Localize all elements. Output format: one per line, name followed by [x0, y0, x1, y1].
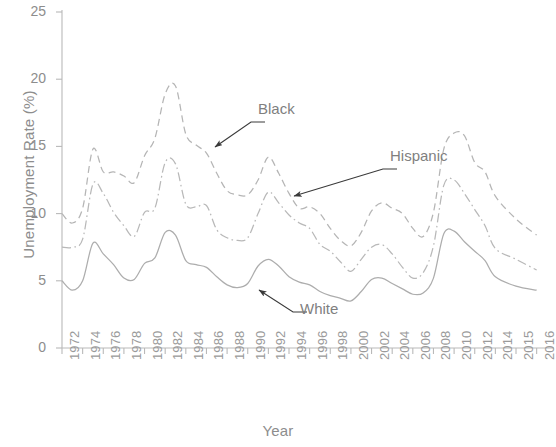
annotation-label-black: Black	[258, 100, 295, 117]
x-tick-label: 2002	[377, 331, 392, 360]
x-tick-label: 2010	[459, 331, 474, 360]
annotation-arrow-black	[215, 122, 265, 147]
x-tick-label: 2014	[500, 331, 515, 360]
x-tick-label: 1996	[315, 331, 330, 360]
y-tick-label: 0	[10, 339, 46, 355]
annotation-arrow-hispanic	[294, 169, 397, 196]
x-tick-label: 1982	[170, 331, 185, 360]
series-line-black	[62, 83, 537, 246]
y-tick-label: 15	[10, 137, 46, 153]
x-axis-title: Year	[0, 422, 556, 439]
annotation-label-white: White	[300, 300, 338, 317]
x-tick-label: 2015	[521, 331, 536, 360]
x-tick-label: 1980	[150, 331, 165, 360]
series-line-hispanic	[62, 158, 537, 279]
x-tick-label: 1992	[273, 331, 288, 360]
x-tick-label: 2012	[480, 331, 495, 360]
x-tick-label: 1998	[335, 331, 350, 360]
x-tick-label: 2004	[397, 331, 412, 360]
y-tick-label: 5	[10, 272, 46, 288]
x-tick-label: 1984	[191, 331, 206, 360]
x-tick-label: 1994	[294, 331, 309, 360]
y-tick-label: 10	[10, 205, 46, 221]
x-tick-label: 1990	[253, 331, 268, 360]
x-tick-label: 1974	[88, 331, 103, 360]
x-tick-label: 1978	[129, 331, 144, 360]
y-axis-title: Unemployment Rate (%)	[20, 55, 37, 295]
x-tick-label: 1972	[67, 331, 82, 360]
x-tick-label: 1976	[108, 331, 123, 360]
x-tick-label: 1986	[211, 331, 226, 360]
unemployment-rate-line-chart: Unemployment Rate (%) Year 0510152025 19…	[0, 0, 556, 447]
x-tick-label: 2016	[542, 331, 556, 360]
annotation-label-hispanic: Hispanic	[390, 147, 448, 164]
x-tick-label: 2000	[356, 331, 371, 360]
x-tick-label: 2006	[418, 331, 433, 360]
x-tick-label: 2008	[438, 331, 453, 360]
series-line-white	[62, 229, 537, 301]
chart-plot-area	[0, 0, 556, 447]
x-tick-label: 1988	[232, 331, 247, 360]
y-tick-label: 20	[10, 70, 46, 86]
y-tick-label: 25	[10, 3, 46, 19]
